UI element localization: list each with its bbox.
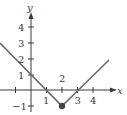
x-tick-label-3: 3 — [75, 95, 81, 106]
x-axis-label: x — [117, 85, 123, 96]
y-tick-label-1: 1 — [18, 70, 24, 81]
y-tick-label-3: 3 — [18, 38, 24, 49]
y-tick-label-neg1: −1 — [12, 101, 27, 112]
x-tick-label-1: 1 — [43, 95, 49, 106]
y-axis-arrow-icon — [29, 12, 34, 19]
y-tick-label-4: 4 — [18, 22, 24, 33]
annotation-label-2: 2 — [59, 73, 65, 84]
graph: y x 4 3 2 1 −1 1 2 3 4 — [0, 0, 127, 115]
y-tick-label-2: 2 — [18, 54, 24, 65]
vertex-point — [59, 103, 65, 109]
y-axis-label: y — [26, 2, 33, 13]
x-tick-label-4: 4 — [90, 95, 96, 106]
x-axis-arrow-icon — [110, 88, 117, 93]
